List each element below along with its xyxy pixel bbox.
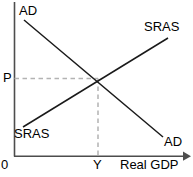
sras-curve-label-top: SRAS: [144, 20, 179, 33]
x-axis-tick-label-y: Y: [93, 158, 102, 171]
x-axis-title: Real GDP: [120, 158, 179, 171]
origin-label: 0: [1, 158, 8, 171]
sras-curve: [23, 38, 168, 127]
x-axis-arrow-icon: [183, 152, 191, 161]
sras-curve-label-bottom: SRAS: [14, 127, 49, 140]
ad-curve: [24, 20, 163, 137]
ad-curve-label-bottom: AD: [164, 135, 182, 148]
y-axis-tick-label-p: P: [3, 71, 12, 84]
diagram-canvas: AD SRAS SRAS AD P Y 0 Real GDP: [0, 0, 193, 177]
ad-curve-label-top: AD: [19, 4, 37, 17]
